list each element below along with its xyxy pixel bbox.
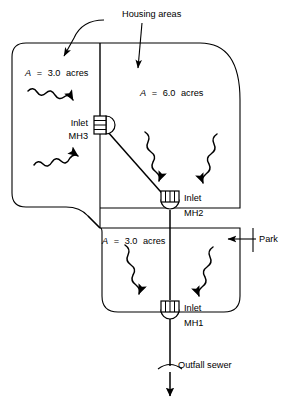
- area-label-park: A = 3.0 acres: [101, 236, 166, 246]
- runoff-arrow-ur-2: [202, 134, 217, 183]
- inlet-mh3-type-label: Inlet: [71, 118, 89, 128]
- boundary-upper-right-housing: [100, 43, 240, 208]
- inlet-mh1-name-label: MH1: [184, 318, 203, 328]
- area-symbol-park: A: [101, 236, 108, 246]
- area-value-upper-right: 6.0: [163, 88, 176, 98]
- area-units-upper-right: acres: [181, 88, 204, 98]
- area-label-upper-right: A = 6.0 acres: [139, 88, 204, 98]
- housing-areas-label: Housing areas: [122, 9, 182, 19]
- runoff-arrow-ur-1: [145, 132, 160, 181]
- sewer-mh3-to-mh2: [107, 131, 168, 200]
- park-label: Park: [259, 234, 278, 244]
- area-symbol-upper-right: A: [139, 88, 146, 98]
- area-label-upper-left: A = 3.0 acres: [24, 68, 89, 78]
- area-units-park: acres: [143, 236, 166, 246]
- area-units-upper-left: acres: [66, 68, 89, 78]
- inlet-mh2-type-label: Inlet: [184, 193, 202, 203]
- inlet-mh3-name-label: MH3: [69, 131, 88, 141]
- leader-housing-right: [138, 23, 142, 68]
- runoff-arrow-ul-1: [28, 89, 73, 100]
- inlet-mh1-type-label: Inlet: [184, 303, 202, 313]
- runoff-arrow-ul-2: [34, 155, 78, 166]
- runoff-arrow-park-1: [125, 245, 140, 294]
- outfall-sewer-label: Outfall sewer: [178, 360, 232, 370]
- drainage-diagram: Housing areas A = 3.0 acres A = 6.0 acre…: [0, 0, 292, 406]
- inlet-mh1-symbol: [161, 301, 179, 319]
- boundary-left-connector: [88, 216, 100, 228]
- runoff-arrow-park-2: [198, 247, 213, 296]
- area-equals-park: =: [114, 236, 119, 246]
- area-value-park: 3.0: [125, 236, 138, 246]
- diagram-canvas: Housing areas A = 3.0 acres A = 6.0 acre…: [0, 0, 292, 406]
- area-equals-upper-left: =: [37, 68, 42, 78]
- area-symbol-upper-left: A: [24, 68, 31, 78]
- inlet-mh3-symbol: [94, 116, 115, 134]
- area-equals-upper-right: =: [152, 88, 157, 98]
- inlet-mh2-symbol: [161, 191, 179, 209]
- area-value-upper-left: 3.0: [48, 68, 61, 78]
- leader-housing-left: [64, 20, 104, 56]
- inlet-mh2-name-label: MH2: [184, 208, 203, 218]
